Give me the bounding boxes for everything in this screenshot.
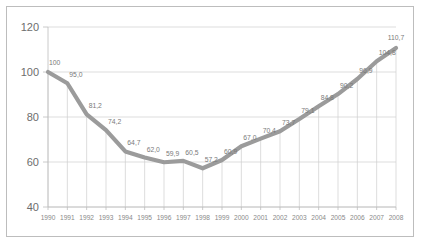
data-label-2004: 84,8 — [321, 94, 334, 101]
x-tick-label-2003: 2003 — [292, 214, 307, 221]
data-label-1999: 60,9 — [224, 148, 237, 155]
y-tick-label-120: 120 — [21, 21, 39, 33]
data-point-labels: 10095,081,274,264,762,059,960,557,260,96… — [49, 34, 404, 163]
data-label-1996: 59,9 — [166, 150, 179, 157]
x-tick-label-1992: 1992 — [79, 214, 94, 221]
data-label-1993: 74,2 — [108, 118, 121, 125]
x-tick-label-1991: 1991 — [60, 214, 75, 221]
x-tick-label-1999: 1999 — [215, 214, 230, 221]
x-tick-label-2008: 2008 — [389, 214, 404, 221]
x-tick-label-2000: 2000 — [234, 214, 249, 221]
x-tick-label-2002: 2002 — [273, 214, 288, 221]
x-tick-label-1993: 1993 — [99, 214, 114, 221]
data-label-2008: 110,7 — [388, 34, 405, 41]
data-label-2005: 90,2 — [340, 82, 353, 89]
x-tick-label-1990: 1990 — [41, 214, 56, 221]
data-label-2002: 73,7 — [282, 119, 295, 126]
y-tick-label-60: 60 — [27, 156, 39, 168]
data-label-2006: 96,9 — [359, 67, 372, 74]
y-axis-tick-labels: 406080100120 — [21, 21, 48, 213]
y-tick-label-100: 100 — [21, 66, 39, 78]
x-tick-label-1997: 1997 — [176, 214, 191, 221]
data-label-1994: 64,7 — [127, 139, 140, 146]
x-tick-label-2006: 2006 — [350, 214, 365, 221]
y-tick-label-40: 40 — [27, 201, 39, 213]
x-tick-label-2007: 2007 — [369, 214, 384, 221]
data-label-2000: 67,0 — [243, 134, 256, 141]
y-tick-label-80: 80 — [27, 111, 39, 123]
data-label-1991: 95,0 — [69, 71, 82, 78]
data-label-1992: 81,2 — [89, 102, 102, 109]
data-label-1990: 100 — [49, 59, 61, 66]
data-label-1997: 60,5 — [185, 149, 198, 156]
data-label-2007: 104,8 — [379, 49, 396, 56]
x-tick-label-1996: 1996 — [157, 214, 172, 221]
x-axis-tick-labels: 1990199119921993199419951996199719981999… — [41, 207, 404, 221]
x-tick-label-1994: 1994 — [118, 214, 133, 221]
data-label-1995: 62,0 — [147, 146, 160, 153]
data-label-1998: 57,2 — [205, 156, 218, 163]
line-chart: 406080100120 199019911992199319941995199… — [0, 0, 421, 244]
x-tick-label-1995: 1995 — [137, 214, 152, 221]
data-label-2003: 79,1 — [301, 107, 314, 114]
x-tick-label-2004: 2004 — [311, 214, 326, 221]
data-label-2001: 70,4 — [263, 127, 276, 134]
x-tick-label-1998: 1998 — [195, 214, 210, 221]
x-tick-label-2001: 2001 — [253, 214, 268, 221]
x-tick-label-2005: 2005 — [331, 214, 346, 221]
